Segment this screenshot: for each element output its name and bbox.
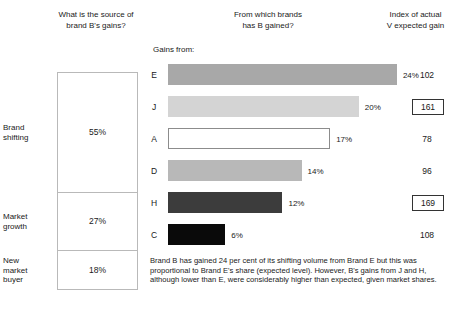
bar-fill xyxy=(168,160,302,181)
header-brands-question: From which brands has B gained? xyxy=(198,9,338,31)
index-value-highlighted: 169 xyxy=(412,195,444,211)
source-segment-label: New market buyer xyxy=(3,256,49,285)
bar-row: E24%102 xyxy=(145,60,463,90)
chart-caption: Brand B has gained 24 per cent of its sh… xyxy=(150,256,455,285)
bar-fill xyxy=(168,96,359,117)
bar-fill xyxy=(168,224,225,245)
header-source-question: What is the source of brand B's gains? xyxy=(22,9,170,31)
bar-category-label: H xyxy=(145,198,163,208)
bar-row: H12%169 xyxy=(145,188,463,218)
index-value: 96 xyxy=(402,166,452,176)
bar-value-label: 14% xyxy=(308,166,324,175)
source-segment-value: 18% xyxy=(58,265,137,275)
source-segment-new-market-buyer: New market buyer 18% xyxy=(58,250,137,289)
bar-category-label: J xyxy=(145,102,163,112)
source-segment-value: 55% xyxy=(58,127,137,137)
bar-category-label: A xyxy=(145,134,163,144)
bar-row: A17%78 xyxy=(145,124,463,154)
bar-category-label: E xyxy=(145,70,163,80)
bar-row: C6%108 xyxy=(145,220,463,250)
bar-fill xyxy=(168,128,330,149)
bar-category-label: D xyxy=(145,166,163,176)
header-index-title: Index of actual V expected gain xyxy=(368,9,463,31)
source-segment-value: 27% xyxy=(58,216,137,226)
index-value: 78 xyxy=(402,134,452,144)
bar-value-label: 17% xyxy=(336,134,352,143)
bar-row: J20%161 xyxy=(145,92,463,122)
bar-fill xyxy=(168,192,282,213)
bar-value-label: 12% xyxy=(288,198,304,207)
source-segment-label: Market growth xyxy=(3,212,49,231)
bar-value-label: 6% xyxy=(231,230,243,239)
source-segment-label: Brand shifting xyxy=(3,123,49,142)
bar-value-label: 20% xyxy=(365,102,381,111)
bar-category-label: C xyxy=(145,230,163,240)
source-of-gains-panel: Brand shifting 55% Market growth 27% New… xyxy=(57,72,138,290)
bar-fill xyxy=(168,64,397,85)
gains-from-label: Gains from: xyxy=(153,45,194,54)
index-value-highlighted: 161 xyxy=(412,99,444,115)
index-value: 102 xyxy=(402,70,452,80)
bar-row: D14%96 xyxy=(145,156,463,186)
source-segment-brand-shifting: Brand shifting 55% xyxy=(58,73,137,192)
brands-gained-bar-chart: E24%102J20%161A17%78D14%96H12%169C6%108 xyxy=(145,60,463,250)
source-segment-market-growth: Market growth 27% xyxy=(58,192,137,250)
index-value: 108 xyxy=(402,230,452,240)
